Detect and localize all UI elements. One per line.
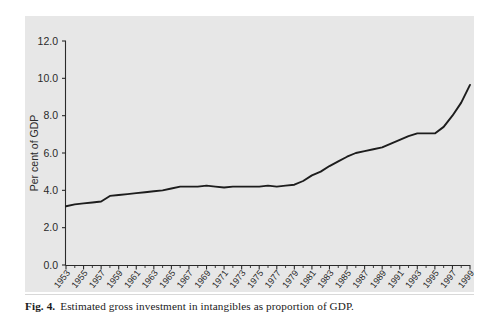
x-tick-label: 1965 <box>157 268 177 290</box>
x-tick-label: 1979 <box>280 268 300 290</box>
y-tick-label: 2.0 <box>43 221 58 233</box>
y-tick-label: 8.0 <box>43 109 58 121</box>
x-tick-label: 1997 <box>438 268 458 290</box>
y-tick-label: 0.0 <box>43 259 58 271</box>
x-tick-label: 1999 <box>456 268 476 290</box>
x-tick-label: 1987 <box>350 268 370 290</box>
y-axis-title: Per cent of GDP <box>28 115 40 191</box>
y-tick-label: 10.0 <box>38 72 59 84</box>
x-tick-label: 1961 <box>122 268 142 290</box>
x-tick-label: 1989 <box>368 268 388 290</box>
series-line-gross-investment <box>66 85 470 206</box>
x-tick-label: 1957 <box>87 268 107 290</box>
figure-container: 0.02.04.06.08.010.012.0 Per cent of GDP … <box>0 0 499 334</box>
y-tick-label: 12.0 <box>38 35 59 47</box>
x-axis-tick-labels: 1953195519571959196119631965196719691971… <box>52 268 476 290</box>
y-tick-label: 4.0 <box>43 184 58 196</box>
caption-text: Estimated gross investment in intangible… <box>60 300 354 312</box>
x-tick-label: 1985 <box>333 268 353 290</box>
x-tick-label: 1977 <box>263 268 283 290</box>
line-chart: 0.02.04.06.08.010.012.0 Per cent of GDP … <box>0 0 499 300</box>
x-tick-label: 1991 <box>386 268 406 290</box>
x-tick-label: 1981 <box>298 268 318 290</box>
x-tick-label: 1971 <box>210 268 230 290</box>
y-axis-tick-labels: 0.02.04.06.08.010.012.0 <box>38 35 59 271</box>
x-tick-label: 1973 <box>228 268 248 290</box>
x-tick-label: 1955 <box>69 268 89 290</box>
x-tick-label: 1983 <box>315 268 335 290</box>
figure-caption: Fig. 4.Estimated gross investment in int… <box>25 300 474 312</box>
x-tick-label: 1953 <box>52 268 72 290</box>
x-axis-group: 1953195519571959196119631965196719691971… <box>52 265 476 290</box>
x-tick-label: 1967 <box>175 268 195 290</box>
x-tick-label: 1963 <box>140 268 160 290</box>
x-tick-label: 1969 <box>192 268 212 290</box>
y-tick-label: 6.0 <box>43 147 58 159</box>
x-tick-label: 1995 <box>421 268 441 290</box>
caption-divider <box>25 294 474 295</box>
x-tick-label: 1975 <box>245 268 265 290</box>
y-axis-group: 0.02.04.06.08.010.012.0 Per cent of GDP <box>28 35 66 271</box>
x-tick-label: 1993 <box>403 268 423 290</box>
x-tick-label: 1959 <box>105 268 125 290</box>
caption-label: Fig. 4. <box>25 300 55 312</box>
data-series-group <box>66 85 470 206</box>
